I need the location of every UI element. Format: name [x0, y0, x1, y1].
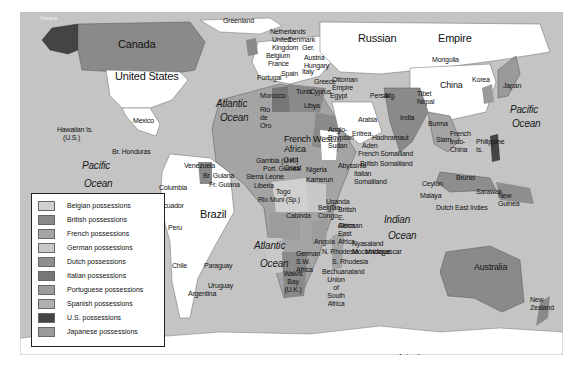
label-china: China — [440, 80, 463, 90]
legend-item-dutch: Dutch possessions — [38, 256, 126, 267]
label-br-guiana: Br. Guiana — [203, 172, 234, 180]
label-empire: Empire — [438, 32, 472, 44]
label-columbia: Columbia — [159, 184, 187, 192]
label-brazil: Brazil — [200, 208, 226, 220]
label-canada: Canada — [118, 38, 155, 50]
swatch-portuguese — [38, 285, 55, 295]
legend-label: British possessions — [67, 216, 127, 223]
ocean-pacific-east-2: Ocean — [512, 118, 540, 130]
label-venezuela: Venezuela — [184, 162, 215, 170]
label-nyasaland: Nyasaland — [352, 240, 383, 248]
label-belgian-congo: Belgian Congo — [318, 204, 342, 220]
label-afg: Afg. — [384, 92, 396, 100]
label-angola: Angola — [314, 238, 335, 246]
ocean-atlantic-north-2: Ocean — [220, 112, 248, 124]
label-paraguay: Paraguay — [204, 262, 232, 270]
label-philippine: Philippine Is. — [476, 138, 506, 154]
label-antarctica: Antarctica — [398, 353, 427, 355]
label-dutch-east-indies: Dutch East Indies — [436, 204, 487, 212]
label-french-somaliland: French Somaliland — [358, 150, 413, 158]
label-italy: Italy — [302, 68, 314, 76]
swatch-german — [38, 243, 55, 253]
label-ceylon: Ceylon — [422, 180, 443, 188]
label-italian-somaliland: Italian Somaliland — [354, 170, 384, 186]
legend-label: Spanish possessions — [67, 300, 133, 307]
legend-label: Portuguese possessions — [67, 286, 143, 293]
ocean-atlantic-south-1: Atlantic — [254, 240, 285, 252]
label-siam: Siam — [436, 136, 451, 144]
map-legend: Belgian possessions British possessions … — [31, 193, 165, 347]
label-british-somaliland: British Somaliland — [360, 160, 412, 168]
label-burma: Burma — [428, 120, 448, 128]
label-abyssinia: Abyssinia — [338, 162, 366, 170]
swatch-belgian — [38, 201, 55, 211]
legend-label: French possessions — [67, 230, 129, 237]
label-eritrea: Eritrea — [352, 130, 371, 138]
label-hadhramaut: Hadhramaut — [372, 134, 409, 142]
ocean-pacific-west-1: Pacific — [82, 160, 110, 172]
label-uruguay: Uruguay — [208, 282, 233, 290]
label-ottoman-empire: Ottoman Empire — [332, 76, 362, 92]
label-rio-de-oro: Rio de Oro — [260, 106, 274, 130]
label-gold-coast: Gold Coast — [284, 156, 304, 172]
label-rio-muni: Rio Muni (Sp.) — [258, 196, 300, 204]
label-togo: Togo — [276, 188, 290, 196]
legend-item-french: French possessions — [38, 228, 129, 239]
label-france: France — [268, 60, 289, 68]
label-br-honduras: Br. Honduras — [112, 148, 150, 156]
label-brunei: Brunei — [456, 174, 475, 182]
legend-label: Japanese possessions — [67, 328, 138, 335]
label-portugal: Portugal — [257, 74, 281, 82]
ocean-atlantic-south-2: Ocean — [260, 258, 288, 270]
swatch-italian — [38, 271, 55, 281]
legend-label: U.S. possessions — [67, 314, 121, 321]
label-nepal: Nepal — [417, 98, 434, 106]
label-egypt: Egypt — [330, 92, 347, 100]
swatch-british — [38, 215, 55, 225]
ocean-indian-2: Ocean — [388, 230, 416, 242]
label-malaya: Malaya — [420, 192, 441, 200]
label-cabinda: Cabinda — [286, 212, 311, 220]
legend-label: Dutch possessions — [67, 258, 126, 265]
swatch-us — [38, 313, 55, 323]
ocean-atlantic-north-1: Atlantic — [216, 98, 247, 110]
legend-label: German possessions — [67, 244, 133, 251]
label-walvis-bay: Walvis Bay (U.K.) — [278, 270, 308, 294]
swatch-japanese — [38, 327, 55, 337]
label-hawaii: Hawaiian Is. — [57, 126, 93, 134]
label-hawaii-sub: (U.S.) — [63, 134, 80, 142]
label-netherlands: Netherlands — [270, 28, 306, 36]
label-cyprus: Cyprus — [310, 88, 331, 96]
label-argentina: Argentina — [188, 290, 216, 298]
ocean-pacific-east-1: Pacific — [510, 104, 538, 116]
label-bechuanaland: Bechuanaland — [322, 268, 364, 276]
legend-item-portuguese: Portuguese possessions — [38, 284, 143, 295]
label-chile: Chile — [172, 262, 187, 270]
label-arabia: Arabia — [358, 116, 377, 124]
swatch-dutch — [38, 257, 55, 267]
label-nigeria: Nigeria — [306, 166, 327, 174]
label-madagascar: Madagascar — [365, 248, 402, 256]
label-greenland: Greenland — [223, 17, 254, 25]
legend-item-us: U.S. possessions — [38, 312, 121, 323]
label-fr-guiana: Fr. Guiana — [209, 181, 240, 189]
label-tibet: Tibet — [417, 90, 431, 98]
swatch-french — [38, 229, 55, 239]
label-mexico: Mexico — [133, 117, 154, 125]
label-union-south-africa: Union of South Africa — [324, 276, 348, 308]
legend-label: Italian possessions — [67, 272, 126, 279]
label-new-guinea: New Guinea — [498, 192, 518, 208]
ocean-indian-1: Indian — [384, 214, 410, 226]
label-libya: Libya — [304, 102, 320, 110]
ocean-pacific-west-2: Ocean — [84, 178, 112, 190]
legend-item-british: British possessions — [38, 214, 127, 225]
label-belgium: Belgium — [266, 52, 290, 60]
legend-item-belgian: Belgian possessions — [38, 200, 131, 211]
label-australia: Australia — [474, 262, 507, 272]
label-sierra-leone: Sierra Leone — [246, 173, 284, 181]
label-japan: Japan — [503, 82, 521, 90]
label-kamerun: Kamerun — [306, 176, 333, 184]
legend-label: Belgian possessions — [67, 202, 131, 209]
label-peru: Peru — [168, 224, 182, 232]
label-n-rhodesia: N. Rhodesia — [322, 248, 358, 256]
